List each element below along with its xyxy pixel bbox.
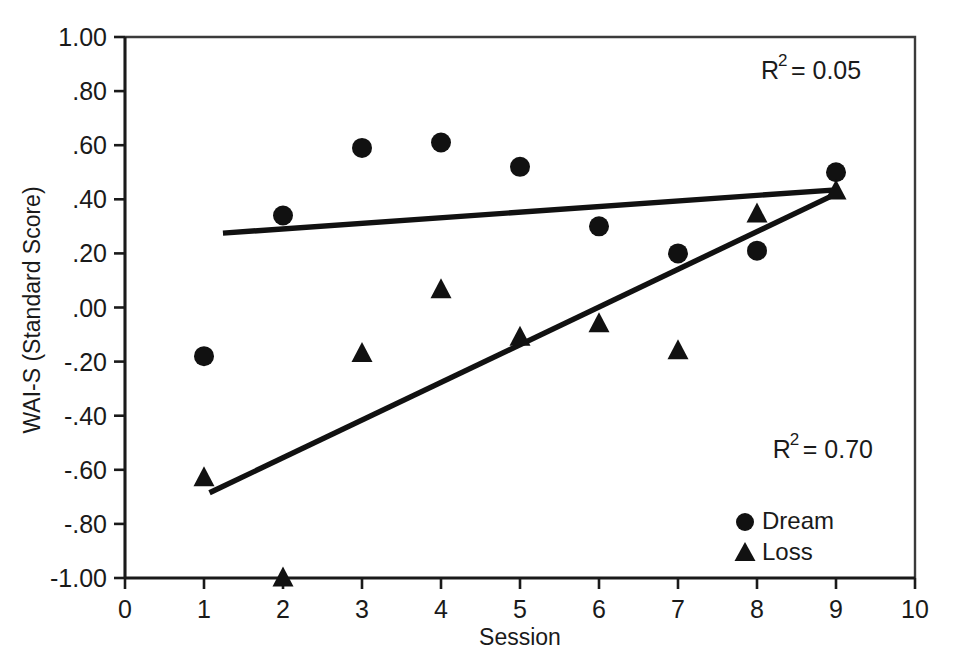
x-tick-label: 1 xyxy=(197,595,211,623)
y-tick-label: .20 xyxy=(72,239,107,267)
x-axis: 012345678910 xyxy=(118,578,929,623)
data-point-loss xyxy=(668,339,689,359)
y-axis: 1.00.80.60.40.20.00-.20-.40-.60-.80-1.00 xyxy=(50,23,125,592)
data-point-dream xyxy=(826,162,846,182)
annotation-group: R2 = 0.05R2 = 0.70 xyxy=(761,51,873,463)
legend-marker-dream xyxy=(736,513,754,531)
data-point-loss xyxy=(431,278,452,298)
data-point-dream xyxy=(194,346,214,366)
scatter-plot-canvas: 1.00.80.60.40.20.00-.20-.40-.60-.80-1.00… xyxy=(0,0,958,669)
x-tick-label: 5 xyxy=(513,595,527,623)
data-point-dream xyxy=(589,216,609,236)
x-tick-label: 2 xyxy=(276,595,290,623)
y-axis-tick-group: 1.00.80.60.40.20.00-.20-.40-.60-.80-1.00 xyxy=(50,23,125,592)
frame-top-right-border xyxy=(125,37,915,578)
data-point-loss xyxy=(352,342,373,362)
data-point-dream xyxy=(352,138,372,158)
legend-label-dream: Dream xyxy=(762,507,834,534)
legend-marker-loss xyxy=(735,542,756,561)
x-axis-title: Session xyxy=(479,624,561,650)
plot-frame xyxy=(125,37,915,578)
annotation-r2-dream: R2 = 0.05 xyxy=(761,51,861,84)
annotation-exponent: 2 xyxy=(778,51,787,70)
legend-label-loss: Loss xyxy=(762,538,813,565)
y-tick-label: -.40 xyxy=(64,402,107,430)
x-tick-label: 6 xyxy=(592,595,606,623)
data-point-dream xyxy=(510,157,530,177)
y-tick-label: .80 xyxy=(72,77,107,105)
data-point-dream xyxy=(668,243,688,263)
data-point-loss xyxy=(747,203,768,223)
x-tick-label: 9 xyxy=(829,595,843,623)
annotation-base: R xyxy=(761,56,779,84)
data-point-loss xyxy=(194,466,215,486)
x-tick-label: 10 xyxy=(901,595,929,623)
data-point-loss xyxy=(589,312,610,332)
y-tick-label: -1.00 xyxy=(50,564,107,592)
x-tick-label: 3 xyxy=(355,595,369,623)
trend-line-dream xyxy=(223,190,836,233)
data-point-dream xyxy=(273,206,293,226)
annotation-rest: = 0.70 xyxy=(803,435,873,463)
y-tick-label: .00 xyxy=(72,294,107,322)
x-axis-tick-group: 012345678910 xyxy=(118,578,929,623)
y-tick-label: -.20 xyxy=(64,348,107,376)
y-tick-label: 1.00 xyxy=(58,23,107,51)
x-tick-label: 4 xyxy=(434,595,448,623)
x-tick-label: 0 xyxy=(118,595,132,623)
y-axis-title: WAI-S (Standard Score) xyxy=(19,186,45,433)
y-tick-label: .40 xyxy=(72,185,107,213)
annotation-r2-loss: R2 = 0.70 xyxy=(773,430,873,463)
data-point-loss xyxy=(273,566,294,586)
chart-figure: 1.00.80.60.40.20.00-.20-.40-.60-.80-1.00… xyxy=(0,0,958,669)
data-point-loss xyxy=(510,326,531,346)
data-point-dream xyxy=(747,241,767,261)
y-tick-label: -.60 xyxy=(64,456,107,484)
y-tick-label: -.80 xyxy=(64,510,107,538)
legend: DreamLoss xyxy=(735,507,835,565)
annotation-base: R xyxy=(773,435,791,463)
data-point-dream xyxy=(431,132,451,152)
annotation-exponent: 2 xyxy=(790,430,799,449)
x-tick-label: 7 xyxy=(671,595,685,623)
y-tick-label: .60 xyxy=(72,131,107,159)
x-tick-label: 8 xyxy=(750,595,764,623)
annotation-rest: = 0.05 xyxy=(791,56,861,84)
